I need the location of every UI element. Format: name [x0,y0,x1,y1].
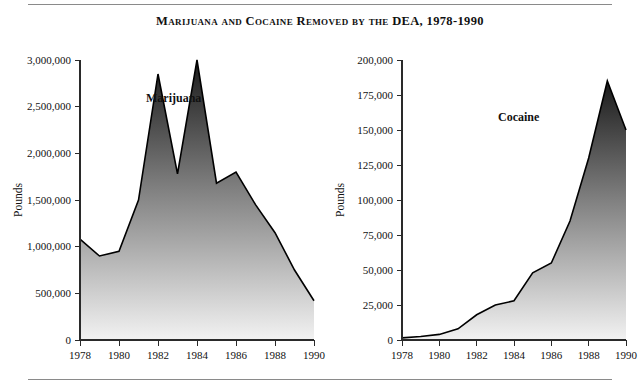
x-tick-label: 1982 [147,349,169,361]
y-tick-label: 1,000,000 [27,240,72,252]
y-tick-label: 75,000 [363,229,394,241]
x-tick-label: 1984 [186,349,209,361]
y-axis-title: Pounds [334,183,346,217]
y-tick-label: 200,000 [357,54,393,66]
x-tick-label: 1978 [69,349,92,361]
x-tick-label: 1986 [225,349,248,361]
x-tick-label: 1990 [303,349,326,361]
y-tick-label: 0 [388,334,394,346]
figure-root: Marijuana and Cocaine Removed by the DEA… [0,0,640,384]
x-tick-label: 1982 [466,349,488,361]
y-tick-label: 25,000 [363,299,394,311]
y-tick-label: 2,500,000 [27,100,72,112]
page-title: Marijuana and Cocaine Removed by the DEA… [0,14,640,29]
x-tick-label: 1978 [391,349,414,361]
series-label-cocaine: Cocaine [498,110,540,124]
x-tick-label: 1988 [578,349,601,361]
top-rule [28,4,612,5]
chart-panel-marijuana: 0500,0001,000,0001,500,0002,000,0002,500… [8,46,320,376]
y-tick-label: 500,000 [35,287,71,299]
x-tick-label: 1984 [503,349,526,361]
y-tick-label: 100,000 [357,194,393,206]
cocaine-area-chart: 025,00050,00075,000100,000125,000150,000… [330,46,632,376]
y-tick-label: 1,500,000 [27,194,72,206]
y-tick-label: 125,000 [357,159,393,171]
y-tick-label: 175,000 [357,89,393,101]
x-tick-label: 1990 [615,349,638,361]
series-label-marijuana: Marijuana [146,91,201,105]
y-tick-label: 2,000,000 [27,147,72,159]
y-tick-label: 50,000 [363,264,394,276]
x-tick-label: 1980 [428,349,451,361]
y-tick-label: 0 [66,334,72,346]
x-tick-label: 1986 [540,349,563,361]
bottom-rule [28,379,612,380]
x-tick-label: 1988 [264,349,287,361]
y-axis-title: Pounds [12,183,24,217]
y-tick-label: 3,000,000 [27,54,72,66]
x-tick-label: 1980 [108,349,131,361]
y-tick-label: 150,000 [357,124,393,136]
marijuana-area-chart: 0500,0001,000,0001,500,0002,000,0002,500… [8,46,320,376]
chart-panel-cocaine: 025,00050,00075,000100,000125,000150,000… [330,46,632,376]
